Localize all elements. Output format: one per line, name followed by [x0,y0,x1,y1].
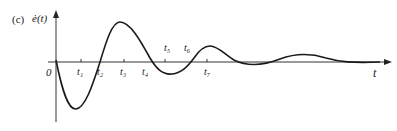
panel-label: (c) [12,13,24,25]
y-axis-arrow-icon [53,10,59,18]
chart-plot [0,0,397,131]
tick-label-t3: t₃ [120,67,126,77]
signal-curve [56,22,380,109]
tick-label-t4: t₄ [142,67,148,77]
x-axis-label: t [373,67,376,79]
tick-label-t1: t₁ [77,67,83,77]
tick-label-t6: t₆ [184,43,190,53]
x-axis-arrow-icon [384,59,392,65]
tick-label-t5: t₅ [164,43,170,53]
tick-label-t7: t₇ [204,67,210,77]
y-axis-label: ė(t) [32,13,47,24]
tick-label-t2: t₂ [97,67,103,77]
origin-label: 0 [46,67,52,78]
